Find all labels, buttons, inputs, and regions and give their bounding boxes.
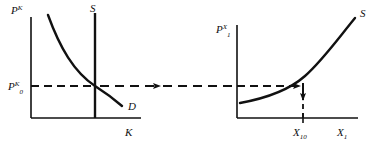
left-x-axis-label: K xyxy=(124,126,133,138)
left-price-level-label: PK0 xyxy=(7,80,23,96)
right-x-axis-label: X1 xyxy=(336,126,347,141)
left-y-axis-label: PK xyxy=(10,4,23,16)
left-demand-curve xyxy=(48,15,122,106)
right-supply-label: S xyxy=(360,7,366,19)
right-panel: PX1 X1 X10 S xyxy=(215,7,366,141)
left-panel: PK K PK0 S D xyxy=(7,2,141,138)
figure-root: PK K PK0 S D xyxy=(0,0,389,143)
right-y-axis-label: PX1 xyxy=(215,23,231,39)
right-supply-curve xyxy=(240,18,355,103)
diagram-canvas: PK K PK0 S D xyxy=(0,0,389,143)
left-demand-label: D xyxy=(127,100,136,112)
right-quantity-label: X10 xyxy=(292,126,307,141)
left-supply-label: S xyxy=(90,2,96,14)
